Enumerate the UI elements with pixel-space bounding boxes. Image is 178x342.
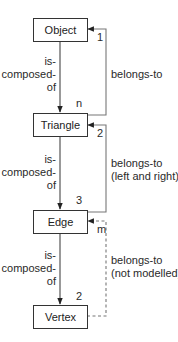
composition-label-triangle-edge: is- composed- of xyxy=(2,153,56,192)
belongs-label-vertex-edge: belongs-to (not modelled) xyxy=(111,254,178,280)
multiplicity-object-triangle: n xyxy=(76,97,82,109)
label-line: (not modelled) xyxy=(111,267,178,280)
entity-object: Object xyxy=(33,18,88,42)
multiplicity-triangle-edge: 3 xyxy=(76,194,82,206)
label-line: is- xyxy=(2,249,56,262)
label-line: belongs-to xyxy=(111,68,162,81)
label-line: belongs-to xyxy=(111,157,178,170)
label-line: is- xyxy=(2,55,56,68)
belongs-line-vertex-edge xyxy=(87,221,106,316)
label-line: of xyxy=(2,81,56,94)
label-line: composed- xyxy=(2,166,56,179)
belongs-label-triangle-object: belongs-to xyxy=(111,68,162,81)
label-line: composed- xyxy=(2,262,56,275)
entity-triangle-label: Triangle xyxy=(41,119,80,131)
label-line: (left and right) xyxy=(111,170,178,183)
belongs-label-edge-triangle: belongs-to (left and right) xyxy=(111,157,178,183)
entity-relationship-diagram: Object Triangle Edge Vertex is- composed… xyxy=(0,0,178,342)
label-line: of xyxy=(2,179,56,192)
label-line: is- xyxy=(2,153,56,166)
composition-label-edge-vertex: is- composed- of xyxy=(2,249,56,288)
label-line: composed- xyxy=(2,68,56,81)
entity-edge-label: Edge xyxy=(48,216,74,228)
label-line: of xyxy=(2,275,56,288)
entity-vertex-label: Vertex xyxy=(45,311,76,323)
multiplicity-edge-vertex: 2 xyxy=(76,290,82,302)
multiplicity-belongs-edge: m xyxy=(97,223,106,235)
entity-edge: Edge xyxy=(33,210,88,234)
multiplicity-belongs-triangle: 2 xyxy=(97,127,103,139)
entity-vertex: Vertex xyxy=(33,305,88,329)
multiplicity-belongs-object: 1 xyxy=(97,31,103,43)
composition-label-object-triangle: is- composed- of xyxy=(2,55,56,94)
entity-object-label: Object xyxy=(45,24,77,36)
label-line: belongs-to xyxy=(111,254,178,267)
entity-triangle: Triangle xyxy=(33,113,88,137)
